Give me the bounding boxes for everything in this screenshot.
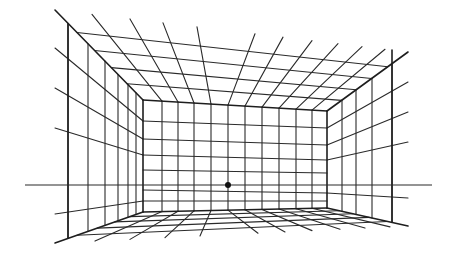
room-edges <box>55 10 408 243</box>
ceiling-depth-line <box>279 44 338 108</box>
ceiling-depth-line <box>197 27 211 104</box>
vanishing-point <box>225 182 231 188</box>
back-wall-horizontal-line <box>143 121 327 128</box>
right-wall-horizontal-line <box>327 112 408 145</box>
floor-grid <box>77 208 390 241</box>
back-wall-horizontal-line <box>143 170 327 173</box>
ceiling-depth-line <box>130 19 178 102</box>
back-wall-horizontal-line <box>143 139 327 145</box>
ceiling-transverse-line <box>111 68 356 90</box>
back-wall-grid <box>143 101 327 211</box>
ceiling-depth-line <box>163 23 194 103</box>
right-wall-horizontal-line <box>327 142 408 160</box>
ceiling-grid <box>77 14 388 110</box>
right-wall-horizontal-line <box>327 82 408 128</box>
ceiling-transverse-line <box>77 33 388 67</box>
ceiling-transverse-line <box>95 51 372 79</box>
back-wall-horizontal-line <box>143 155 327 160</box>
back-wall-horizontal-line <box>143 190 327 193</box>
right-wall-horizontal-line <box>327 193 408 198</box>
perspective-grid-diagram <box>0 0 450 272</box>
